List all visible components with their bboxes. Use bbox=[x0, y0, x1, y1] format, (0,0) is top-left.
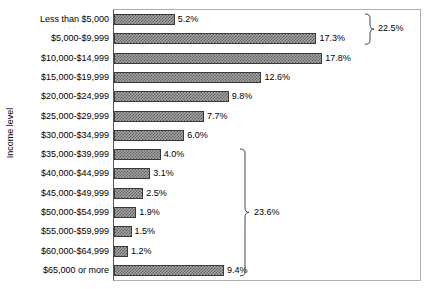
bar-row: $60,000-$64,9991.2% bbox=[0, 242, 439, 261]
lower-brace-label: 23.6% bbox=[254, 207, 280, 217]
bar bbox=[114, 226, 132, 237]
category-label: $50,000-$54,999 bbox=[14, 207, 109, 218]
bar-row: $15,000-$19,99912.6% bbox=[0, 68, 439, 87]
bar bbox=[114, 188, 143, 199]
bar bbox=[114, 111, 204, 122]
bar-row: $20,000-$24,9999.8% bbox=[0, 87, 439, 106]
value-label: 5.2% bbox=[178, 14, 199, 25]
value-label: 1.5% bbox=[135, 226, 156, 237]
value-label: 6.0% bbox=[187, 130, 208, 141]
category-label: $30,000-$34,999 bbox=[14, 130, 109, 141]
category-label: $5,000-$9,999 bbox=[14, 33, 109, 44]
bar bbox=[114, 246, 128, 257]
upper-brace bbox=[364, 13, 374, 45]
upper-brace-label: 22.5% bbox=[378, 23, 404, 33]
value-label: 1.2% bbox=[131, 246, 152, 257]
bar bbox=[114, 149, 161, 160]
value-label: 7.7% bbox=[207, 111, 228, 122]
bar-chart: Income level Less than $5,0005.2%$5,000-… bbox=[0, 0, 439, 289]
category-label: $20,000-$24,999 bbox=[14, 91, 109, 102]
value-label: 4.0% bbox=[164, 149, 185, 160]
bar-row: $30,000-$34,9996.0% bbox=[0, 126, 439, 145]
bar bbox=[114, 130, 184, 141]
category-label: $10,000-$14,999 bbox=[14, 53, 109, 64]
bar bbox=[114, 265, 224, 276]
value-label: 12.6% bbox=[264, 72, 290, 83]
category-label: $25,000-$29,999 bbox=[14, 111, 109, 122]
bar bbox=[114, 91, 229, 102]
bar bbox=[114, 33, 316, 44]
bar-row: $35,000-$39,9994.0% bbox=[0, 145, 439, 164]
lower-brace bbox=[239, 148, 249, 277]
bar bbox=[114, 53, 322, 64]
category-label: $60,000-$64,999 bbox=[14, 246, 109, 257]
category-label: $15,000-$19,999 bbox=[14, 72, 109, 83]
category-label: $65,000 or more bbox=[14, 265, 109, 276]
category-label: Less than $5,000 bbox=[14, 14, 109, 25]
bar-row: $45,000-$49,9992.5% bbox=[0, 184, 439, 203]
bar-row: $10,000-$14,99917.8% bbox=[0, 49, 439, 68]
value-label: 17.3% bbox=[319, 33, 345, 44]
bar bbox=[114, 168, 150, 179]
bar bbox=[114, 14, 175, 25]
category-label: $55,000-$59,999 bbox=[14, 226, 109, 237]
bar-row: $25,000-$29,9997.7% bbox=[0, 107, 439, 126]
bar bbox=[114, 207, 136, 218]
bar-row: $40,000-$44,9993.1% bbox=[0, 164, 439, 183]
value-label: 17.8% bbox=[325, 53, 351, 64]
value-label: 3.1% bbox=[153, 168, 174, 179]
bar-row: $50,000-$54,9991.9% bbox=[0, 203, 439, 222]
bar-row: $65,000 or more9.4% bbox=[0, 261, 439, 280]
category-label: $45,000-$49,999 bbox=[14, 188, 109, 199]
category-label: $40,000-$44,999 bbox=[14, 168, 109, 179]
value-label: 2.5% bbox=[146, 188, 167, 199]
category-label: $35,000-$39,999 bbox=[14, 149, 109, 160]
value-label: 9.8% bbox=[232, 91, 253, 102]
bar-row: $55,000-$59,9991.5% bbox=[0, 222, 439, 241]
value-label: 1.9% bbox=[139, 207, 160, 218]
bar bbox=[114, 72, 261, 83]
